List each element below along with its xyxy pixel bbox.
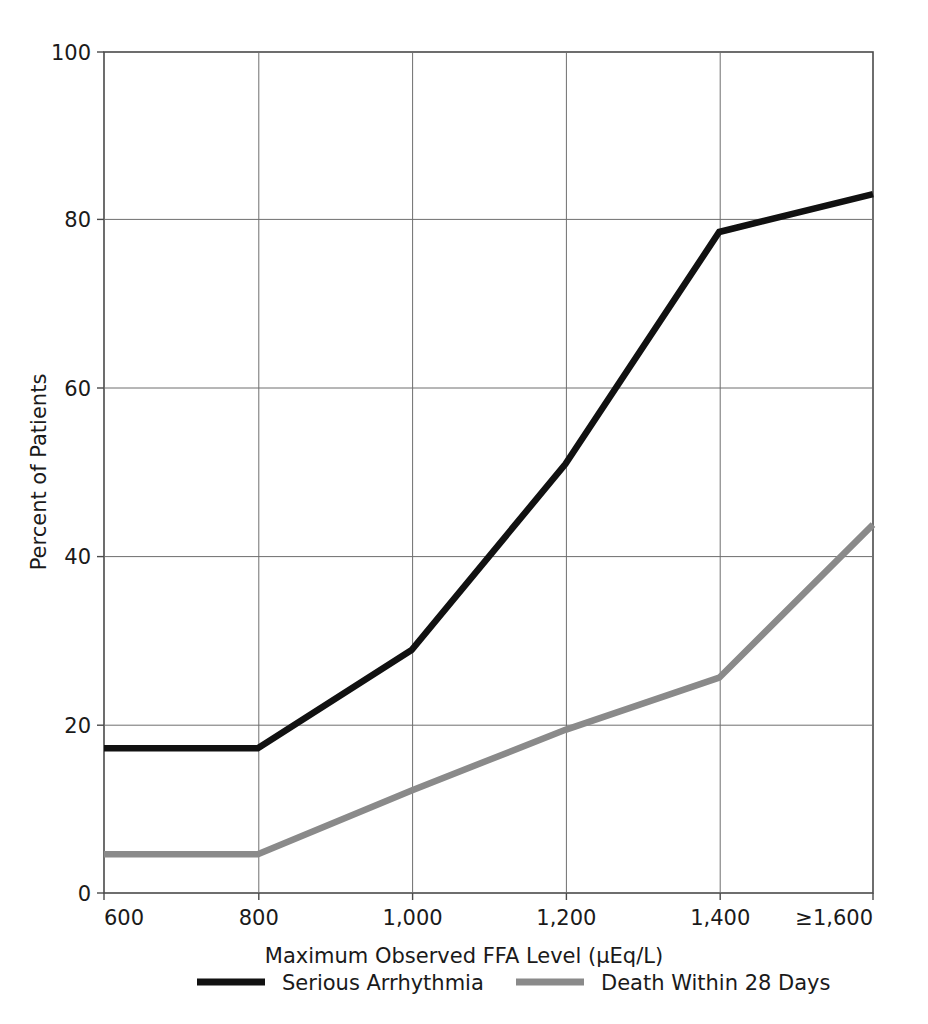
x-tick-label-1400: 1,400 — [690, 906, 750, 930]
x-tick-label-1000: 1,000 — [383, 906, 443, 930]
line-chart: 100 80 60 40 20 0 600 800 1,000 1,200 1,… — [0, 0, 928, 1024]
chart-figure: 100 80 60 40 20 0 600 800 1,000 1,200 1,… — [0, 0, 928, 1024]
x-tick-label-600: 600 — [104, 906, 144, 930]
y-axis-tick-marks — [97, 52, 104, 893]
x-tick-label-1600: ≥1,600 — [795, 906, 873, 930]
y-tick-label-0: 0 — [78, 882, 91, 906]
y-axis-title: Percent of Patients — [27, 374, 51, 571]
y-tick-label-40: 40 — [64, 545, 91, 569]
legend-label-death-within-28-days: Death Within 28 Days — [601, 971, 830, 995]
y-tick-label-20: 20 — [64, 714, 91, 738]
x-axis-title: Maximum Observed FFA Level (μEq/L) — [265, 944, 663, 968]
chart-legend: Serious Arrhythmia Death Within 28 Days — [197, 971, 830, 995]
plot-area-frame — [104, 52, 873, 893]
x-axis-tick-marks — [104, 893, 873, 900]
y-tick-label-100: 100 — [51, 41, 91, 65]
y-tick-label-80: 80 — [64, 208, 91, 232]
y-tick-label-60: 60 — [64, 377, 91, 401]
legend-label-serious-arrhythmia: Serious Arrhythmia — [282, 971, 484, 995]
x-tick-label-1200: 1,200 — [536, 906, 596, 930]
x-tick-label-800: 800 — [239, 906, 279, 930]
